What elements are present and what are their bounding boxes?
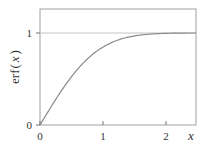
y-axis-label: erf(x) — [7, 50, 22, 84]
erf-chart: 0 1 2 0 1 x erf(x) — [0, 0, 203, 149]
erf-curve — [40, 33, 196, 125]
y-tick-label-1: 1 — [27, 27, 33, 39]
x-tick-label-1: 1 — [100, 130, 106, 142]
plot-frame — [40, 9, 196, 125]
y-axis-label-open: ( — [7, 64, 22, 68]
x-axis-label: x — [187, 128, 194, 143]
x-tick-label-0: 0 — [37, 130, 43, 142]
y-tick-label-0: 0 — [27, 119, 33, 131]
y-axis-label-close: ) — [7, 50, 22, 54]
y-axis-label-fn: erf — [7, 69, 22, 84]
x-tick-label-2: 2 — [163, 130, 169, 142]
y-axis-label-var: x — [7, 56, 22, 63]
